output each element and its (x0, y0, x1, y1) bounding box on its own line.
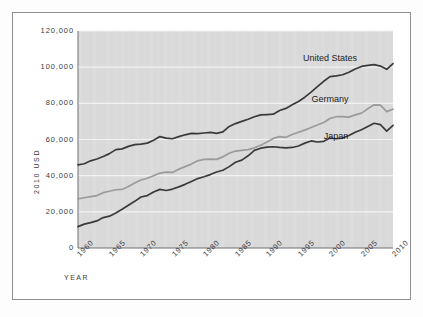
chart-figure: 020,00040,00060,00080,000100,000120,000 … (0, 0, 423, 317)
y-axis-title: 2010 USD (33, 132, 40, 212)
series-label-united-states: United States (303, 53, 357, 63)
y-tick-label: 0 (20, 243, 74, 252)
y-tick-label: 120,000 (20, 26, 74, 35)
x-axis-title: YEAR (64, 274, 89, 281)
y-tick-label: 60,000 (20, 135, 74, 144)
plot-wrapper: 020,00040,00060,00080,000100,000120,000 … (0, 0, 423, 317)
series-label-germany: Germany (312, 94, 349, 104)
y-tick-label: 40,000 (20, 171, 74, 180)
y-tick-label: 20,000 (20, 207, 74, 216)
y-tick-label: 80,000 (20, 98, 74, 107)
y-tick-label: 100,000 (20, 62, 74, 71)
y-axis-ticks: 020,00040,00060,00080,000100,000120,000 (16, 0, 74, 317)
series-label-japan: Japan (324, 131, 349, 141)
